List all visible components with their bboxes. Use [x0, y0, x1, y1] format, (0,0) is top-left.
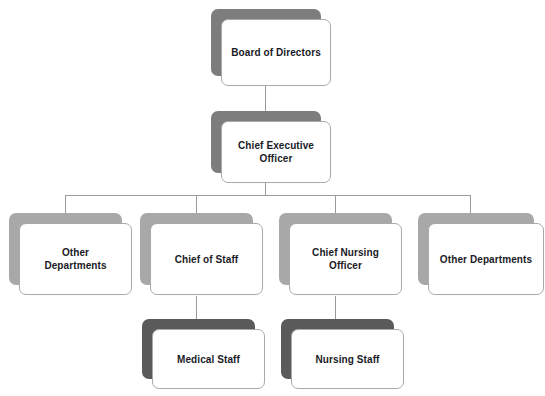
node-card: Medical Staff [152, 329, 265, 389]
connector-level3-bus [65, 195, 471, 196]
org-chart-diagram: Board of Directors Chief Executive Offic… [0, 0, 545, 396]
connector-board-to-ceo [265, 86, 266, 111]
node-other-departments-right[interactable]: Other Departments [418, 213, 534, 285]
connector-bus-to-other-departments-left [65, 195, 66, 214]
node-other-departments-left[interactable]: Other Departments [9, 213, 122, 285]
node-card: Chief Nursing Officer [289, 223, 402, 295]
node-card: Nursing Staff [291, 329, 404, 389]
node-card: Other Departments [428, 223, 544, 295]
connector-bus-to-chief-of-staff [196, 195, 197, 214]
node-card: Chief Executive Officer [221, 121, 331, 183]
connector-chief-of-staff-to-medical-staff [196, 296, 197, 319]
node-card: Chief of Staff [150, 223, 263, 295]
node-board-of-directors[interactable]: Board of Directors [211, 9, 321, 76]
node-label: Chief of Staff [169, 253, 245, 266]
node-card: Other Departments [19, 223, 132, 295]
node-chief-of-staff[interactable]: Chief of Staff [140, 213, 253, 285]
node-label: Other Departments [434, 253, 538, 266]
node-card: Board of Directors [221, 19, 331, 86]
node-label: Chief Executive Officer [232, 139, 320, 165]
node-medical-staff[interactable]: Medical Staff [142, 319, 255, 379]
node-label: Medical Staff [171, 353, 246, 366]
node-label: Nursing Staff [309, 353, 385, 366]
connector-bus-to-chief-nursing-officer [335, 195, 336, 214]
connector-bus-to-other-departments-right [470, 195, 471, 214]
node-label: Chief Nursing Officer [290, 246, 401, 272]
node-label: Other Departments [38, 246, 112, 272]
connector-chief-nursing-officer-to-nursing-staff [335, 296, 336, 319]
node-label: Board of Directors [225, 46, 327, 59]
node-nursing-staff[interactable]: Nursing Staff [281, 319, 394, 379]
node-chief-nursing-officer[interactable]: Chief Nursing Officer [279, 213, 392, 285]
node-chief-executive-officer[interactable]: Chief Executive Officer [211, 111, 321, 173]
